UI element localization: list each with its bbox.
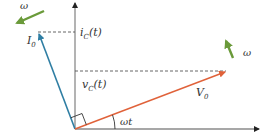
current-projection-label: iC(t): [80, 26, 102, 41]
voltage-projection-label: vC(t): [82, 78, 107, 93]
current-amplitude-label: I0: [26, 34, 36, 49]
omega-label-top-left: ω: [20, 0, 28, 11]
voltage-amplitude-label: V0: [196, 86, 209, 101]
current-phasor: [39, 34, 75, 129]
phasor-diagram: ω ω I0 iC(t) vC(t) V0 ωt: [0, 0, 263, 132]
rotation-arrow-right: [226, 41, 233, 58]
rotation-arrow-top-left: [17, 11, 44, 23]
angle-arc: [113, 115, 116, 129]
omega-label-right: ω: [243, 47, 251, 58]
diagram-svg: ω ω I0 iC(t) vC(t) V0 ωt: [0, 0, 263, 132]
angle-label: ωt: [120, 116, 133, 127]
